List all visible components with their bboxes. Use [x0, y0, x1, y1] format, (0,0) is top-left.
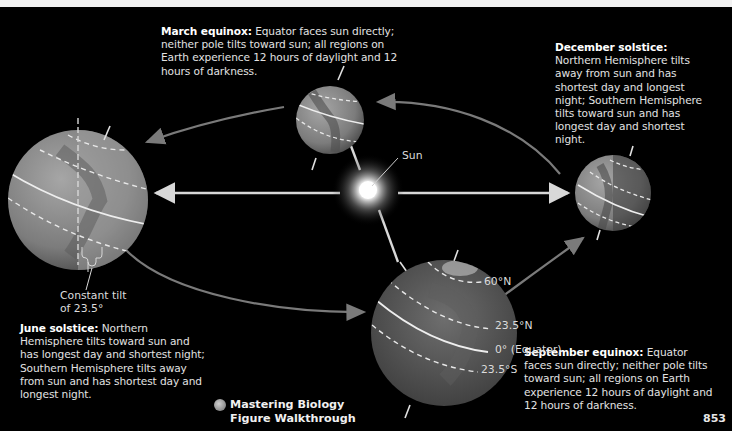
caption-heading: December solstice:: [555, 41, 715, 54]
orbit-arrow-september-to-december: [503, 238, 583, 296]
orbit-arrow-december-to-march: [378, 102, 560, 174]
caption-heading: March equinox:: [161, 25, 252, 37]
caption-december-solstice: December solstice: Northern Hemisphere t…: [555, 41, 715, 147]
seasons-diagram: March equinox: Equator faces sun directl…: [0, 0, 732, 431]
tilt-label-line2: of 23.5°: [60, 302, 103, 315]
sun-label: Sun: [402, 149, 423, 162]
globe-december-solstice: [575, 146, 658, 240]
page-number: 853: [703, 412, 726, 425]
orbit-arrow-june-to-september: [126, 250, 364, 312]
latitude-23-5n-label: 23.5°N: [495, 319, 533, 332]
latitude-60n-label: 60°N: [484, 275, 511, 288]
caption-march-equinox: March equinox: Equator faces sun directl…: [161, 25, 401, 78]
caption-june-solstice: June solstice: Northern Hemisphere tilts…: [20, 322, 205, 401]
equator-label: 0° (Equator): [495, 343, 562, 356]
caption-heading: June solstice:: [20, 322, 98, 334]
mastering-biology-walkthrough-link[interactable]: Mastering Biology Figure Walkthrough: [230, 398, 356, 426]
caption-body: Northern Hemisphere tilts away from sun …: [555, 54, 702, 145]
link-line1: Mastering Biology: [230, 398, 356, 412]
orbit-arrow-march-to-june: [147, 107, 284, 142]
globe-june-solstice: [8, 118, 158, 290]
latitude-23-5s-label: 23.5°S: [481, 363, 517, 376]
link-line2: Figure Walkthrough: [230, 412, 356, 426]
tilt-label-line1: Constant tilt: [60, 289, 126, 302]
walkthrough-icon: [214, 399, 226, 411]
